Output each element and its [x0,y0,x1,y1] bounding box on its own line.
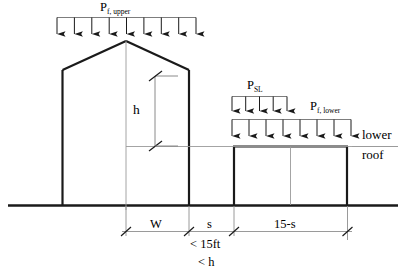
load-lower-roof-arrows [232,120,351,137]
lower-building [233,147,348,206]
lower-roof-label-line1: lower [362,128,392,141]
load-subscript-sl: SL [254,85,263,94]
lower-roof-label-line2: roof [362,148,384,161]
load-subscript-lower: f, lower [317,106,340,115]
height-dimension [149,71,178,151]
snow-load-diagram: Pf, upper PSL Pf, lower h lower roof W s… [0,0,406,278]
load-symbol-lower: P [310,99,317,113]
load-symbol-sl: P [247,78,254,92]
load-label-snow-drift: PSL [247,79,263,92]
load-label-upper-roof: Pf, upper [100,1,130,14]
load-upper-roof-arrows [57,18,196,35]
dimension-label-s: s [207,218,212,231]
load-symbol-upper: P [100,0,107,14]
dimension-label-w: W [150,218,162,231]
load-subscript-upper: f, upper [107,7,130,16]
load-snow-drift-arrows [232,97,287,112]
load-label-lower-roof: Pf, lower [310,100,340,113]
height-label: h [133,103,140,117]
upper-building [63,41,190,210]
constraint-label-max-height: < h [198,256,214,269]
constraint-label-max-span: < 15ft [190,238,220,251]
dimension-label-15-minus-s: 15-s [274,218,296,231]
